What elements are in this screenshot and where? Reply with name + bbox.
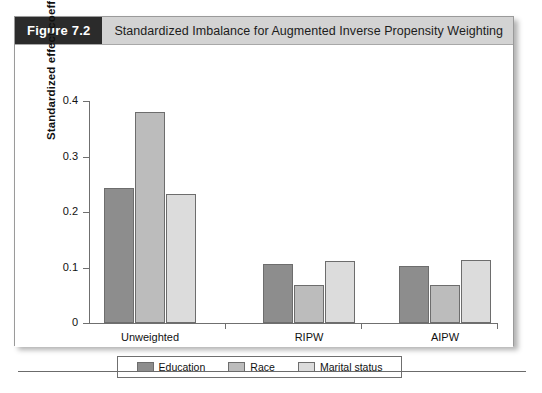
- y-tick-label: 0: [72, 316, 83, 328]
- bar-unweighted-education: [104, 188, 134, 323]
- bar-aipw-education: [399, 266, 429, 323]
- figure-title: Standardized Imbalance for Augmented Inv…: [102, 17, 513, 44]
- bar-unweighted-race: [135, 112, 165, 323]
- bar-ripw-race: [294, 285, 324, 323]
- y-tick-0: 0: [83, 323, 89, 324]
- y-tick-label: 0.2: [63, 205, 83, 217]
- chart-legend: Education Race Marital status: [117, 356, 402, 378]
- bar-unweighted-marital: [166, 194, 196, 323]
- x-label-unweighted: Unweighted: [121, 331, 179, 343]
- page-divider: [18, 371, 526, 372]
- figure-number-badge: Figure 7.2: [15, 17, 102, 44]
- y-tick-0.2: 0.2: [83, 212, 89, 213]
- x-axis-line: [89, 323, 497, 324]
- x-tick-separator: [225, 323, 226, 329]
- y-tick-label: 0.1: [63, 261, 83, 273]
- y-tick-0.3: 0.3: [83, 157, 89, 158]
- y-tick-0.4: 0.4: [83, 101, 89, 102]
- y-tick-0.1: 0.1: [83, 268, 89, 269]
- figure-body: Standardized effect coefficient 0.4 0.3 …: [15, 45, 513, 347]
- x-tick-separator: [497, 323, 498, 329]
- y-axis-label: Standardized effect coefficient: [45, 0, 57, 140]
- bar-aipw-race: [430, 285, 460, 323]
- y-tick-label: 0.3: [63, 150, 83, 162]
- figure-container: Figure 7.2 Standardized Imbalance for Au…: [14, 16, 514, 346]
- figure-header: Figure 7.2 Standardized Imbalance for Au…: [15, 17, 513, 45]
- bar-ripw-education: [263, 264, 293, 323]
- x-tick-separator: [361, 323, 362, 329]
- x-label-ripw: RIPW: [295, 331, 324, 343]
- bar-aipw-marital: [461, 260, 491, 323]
- x-label-aipw: AIPW: [431, 331, 459, 343]
- plot-area: Standardized effect coefficient 0.4 0.3 …: [15, 45, 513, 347]
- y-tick-label: 0.4: [63, 94, 83, 106]
- bar-ripw-marital: [325, 261, 355, 323]
- y-axis-line: [89, 101, 90, 323]
